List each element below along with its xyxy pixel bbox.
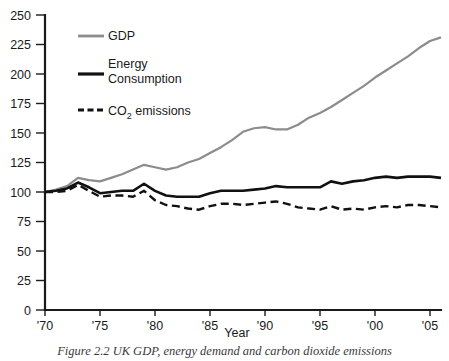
x-axis-title: Year bbox=[224, 326, 249, 340]
line-chart: 0255075100125150175200225250 '70'75'80'8… bbox=[0, 0, 449, 361]
x-axis-tick-label: '70 bbox=[37, 319, 53, 333]
y-axis-tick-marks bbox=[36, 15, 45, 310]
y-axis-tick-label: 50 bbox=[17, 245, 31, 259]
data-series-group bbox=[45, 37, 441, 209]
legend-label-energy: Energy bbox=[108, 57, 148, 71]
y-axis-tick-label: 0 bbox=[24, 304, 31, 318]
figure-container: 0255075100125150175200225250 '70'75'80'8… bbox=[0, 0, 449, 361]
y-axis-tick-label: 175 bbox=[10, 97, 31, 111]
series-line-gdp bbox=[45, 37, 441, 192]
x-axis-tick-label: '95 bbox=[312, 319, 328, 333]
y-axis-tick-labels: 0255075100125150175200225250 bbox=[10, 9, 31, 318]
x-axis-tick-label: '75 bbox=[92, 319, 108, 333]
legend-label-consumption: Consumption bbox=[108, 72, 182, 86]
x-axis-tick-label: '80 bbox=[147, 319, 163, 333]
chart-legend: GDP Energy Consumption CO2 emissions bbox=[78, 29, 191, 121]
legend-label-gdp: GDP bbox=[108, 29, 135, 43]
y-axis-tick-label: 75 bbox=[17, 215, 31, 229]
x-axis-tick-label: '85 bbox=[202, 319, 218, 333]
y-axis-tick-label: 200 bbox=[10, 68, 31, 82]
y-axis-tick-label: 225 bbox=[10, 38, 31, 52]
figure-caption: Figure 2.2 UK GDP, energy demand and car… bbox=[0, 344, 449, 359]
legend-label-co2: CO2 emissions bbox=[108, 104, 191, 121]
x-axis-tick-label: '00 bbox=[367, 319, 383, 333]
y-axis-tick-label: 250 bbox=[10, 9, 31, 23]
x-axis-tick-label: '90 bbox=[257, 319, 273, 333]
y-axis-tick-label: 125 bbox=[10, 156, 31, 170]
series-line-co2-emissions bbox=[45, 185, 441, 210]
x-axis-tick-label: '05 bbox=[422, 319, 438, 333]
y-axis-tick-label: 25 bbox=[17, 274, 31, 288]
y-axis-tick-label: 100 bbox=[10, 186, 31, 200]
y-axis-tick-label: 150 bbox=[10, 127, 31, 141]
